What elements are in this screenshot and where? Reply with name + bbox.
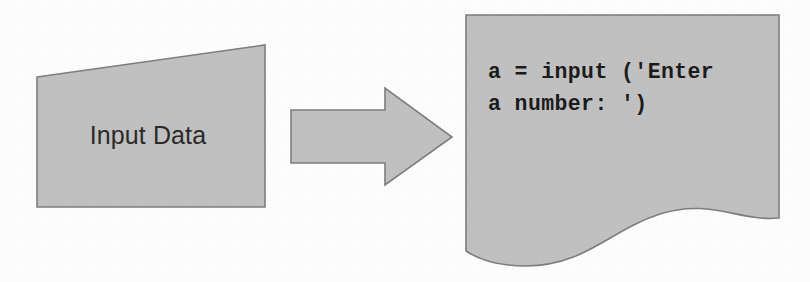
diagram-canvas: Input Data a = input ('Enter a number: '… (0, 0, 810, 282)
input-data-node[interactable]: Input Data (37, 45, 265, 207)
flow-arrow[interactable] (291, 88, 452, 185)
input-data-label: Input Data (90, 121, 206, 149)
output-code-node[interactable]: a = input ('Enter a number: ') (466, 15, 779, 266)
flow-diagram: Input Data a = input ('Enter a number: '… (0, 0, 810, 282)
arrow-right-icon (291, 88, 452, 185)
document-shape (466, 15, 779, 266)
code-line-2: a number: ') (488, 92, 648, 116)
code-line-1: a = input ('Enter (488, 60, 714, 84)
